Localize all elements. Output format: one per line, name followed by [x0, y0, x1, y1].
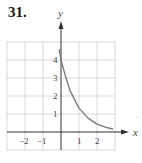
x-axis-label: x: [132, 126, 138, 138]
graph: x y −2 −1 1 2 1 2 3 4: [0, 0, 142, 163]
y-axis: [59, 21, 64, 150]
x-tick-label: −1: [37, 136, 47, 146]
y-tick-label: 2: [53, 91, 58, 101]
x-tick-label: 1: [77, 136, 82, 146]
y-tick-label: 3: [53, 73, 58, 83]
stray-dot: [137, 116, 138, 117]
x-tick-label: 2: [95, 136, 100, 146]
y-tick-label: 4: [53, 55, 58, 65]
y-axis-label: y: [57, 7, 63, 19]
x-tick-label: −2: [19, 136, 29, 146]
y-tick-label: 1: [53, 109, 58, 119]
decay-curve: [59, 49, 113, 129]
